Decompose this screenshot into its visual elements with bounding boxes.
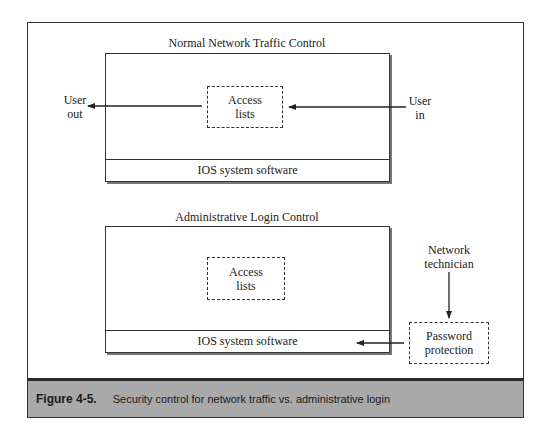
figure-caption-text: Security control for network traffic vs.… bbox=[113, 393, 390, 405]
figure-caption-bar: Figure 4-5. Security control for network… bbox=[27, 378, 524, 418]
connector-arrows bbox=[0, 0, 553, 438]
figure-number: Figure 4-5. bbox=[36, 392, 97, 406]
